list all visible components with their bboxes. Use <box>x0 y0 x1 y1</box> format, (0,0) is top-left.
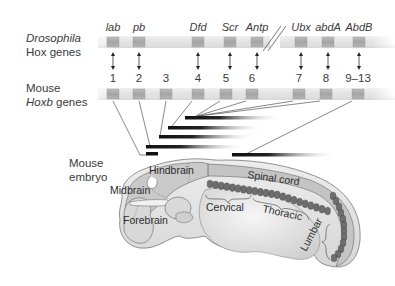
drosophila-gene-box-lab <box>107 37 119 47</box>
double-arrow-icon <box>255 52 259 70</box>
drosophila-gene-box-Antp <box>251 37 263 47</box>
drosophila-gene-label: Antp <box>245 21 269 33</box>
drosophila-gene-box-Ubx <box>295 37 307 47</box>
double-arrow-icon <box>228 52 232 70</box>
mouse-gene-number: 5 <box>223 72 229 84</box>
mouse-gene-box-2 <box>133 89 145 99</box>
hindbrain-label: Hindbrain <box>149 164 194 176</box>
hox-genes-label: Hox genes <box>26 46 81 58</box>
mouse-gene-box-1 <box>107 89 119 99</box>
mouse-embryo-label-1: Mouse <box>69 157 104 169</box>
double-arrow-icon <box>137 52 141 70</box>
drosophila-gene-label: Scr <box>222 21 240 33</box>
mouse-gene-number: 8 <box>323 72 329 84</box>
drosophila-gene-box-AbdB <box>353 37 365 47</box>
mouse-gene-box-8 <box>320 89 332 99</box>
drosophila-label: Drosophila <box>26 32 81 44</box>
drosophila-gene-box-abdA <box>322 37 334 47</box>
double-arrow-icon <box>357 52 361 70</box>
hox-gene-diagram: Drosophila Hox genes Mouse Hoxb genes Mo… <box>0 0 395 286</box>
mouse-hoxb-chromosome <box>98 88 395 100</box>
cervical-label: Cervical <box>206 201 244 213</box>
drosophila-gene-label: AbdB <box>345 21 373 33</box>
forebrain-label: Forebrain <box>123 214 168 226</box>
drosophila-gene-box-Scr <box>224 37 236 47</box>
homology-arrows <box>111 52 361 70</box>
drosophila-gene-label: Dfd <box>189 21 207 33</box>
mouse-gene-box-3 <box>160 89 172 99</box>
mouse-label: Mouse <box>26 82 61 94</box>
mouse-gene-numbers: 123456789–13 <box>110 72 371 84</box>
hoxb-genes-label: Hoxb genes <box>26 96 88 108</box>
mouse-gene-number: 7 <box>296 72 302 84</box>
mouse-gene-number: 1 <box>110 72 116 84</box>
mouse-gene-number: 4 <box>195 72 202 84</box>
mouse-gene-box-9–13 <box>352 89 364 99</box>
drosophila-gene-label: Ubx <box>291 21 311 33</box>
double-arrow-icon <box>111 52 115 70</box>
double-arrow-icon <box>299 52 303 70</box>
midbrain-label: Midbrain <box>110 184 150 196</box>
mouse-gene-box-5 <box>220 89 232 99</box>
drosophila-gene-label: lab <box>106 21 121 33</box>
drosophila-gene-box-Dfd <box>192 37 204 47</box>
mouse-gene-number: 2 <box>136 72 142 84</box>
drosophila-gene-labels: labpbDfdScrAntpUbxabdAAbdB <box>106 21 373 33</box>
mouse-embryo-label-2: embryo <box>69 171 107 183</box>
mouse-gene-number: 3 <box>163 72 169 84</box>
drosophila-gene-label: pb <box>132 21 145 33</box>
mouse-gene-number: 6 <box>249 72 255 84</box>
mouse-gene-box-6 <box>246 89 258 99</box>
double-arrow-icon <box>196 52 200 70</box>
drosophila-gene-box-pb <box>133 37 145 47</box>
mouse-gene-box-7 <box>293 89 305 99</box>
double-arrow-icon <box>326 52 330 70</box>
drosophila-gene-label: abdA <box>315 21 341 33</box>
mouse-gene-box-4 <box>192 89 204 99</box>
mouse-gene-number: 9–13 <box>345 72 371 84</box>
